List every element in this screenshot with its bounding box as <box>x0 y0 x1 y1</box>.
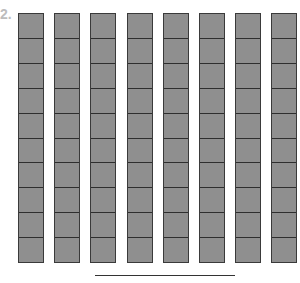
unit-cell <box>164 14 188 39</box>
answer-line[interactable] <box>95 275 235 276</box>
ten-rod <box>199 13 225 263</box>
unit-cell <box>272 213 296 238</box>
unit-cell <box>19 14 43 39</box>
unit-cell <box>236 213 260 238</box>
unit-cell <box>19 163 43 188</box>
ten-rod <box>54 13 80 263</box>
unit-cell <box>128 114 152 139</box>
unit-cell <box>272 114 296 139</box>
unit-cell <box>19 64 43 89</box>
unit-cell <box>128 89 152 114</box>
unit-cell <box>164 39 188 64</box>
unit-cell <box>200 114 224 139</box>
unit-cell <box>128 238 152 262</box>
unit-cell <box>128 14 152 39</box>
unit-cell <box>128 64 152 89</box>
ten-rod <box>271 13 297 263</box>
unit-cell <box>128 39 152 64</box>
unit-cell <box>200 163 224 188</box>
ten-rod <box>18 13 44 263</box>
unit-cell <box>164 188 188 213</box>
unit-cell <box>164 238 188 262</box>
unit-cell <box>164 89 188 114</box>
unit-cell <box>272 238 296 262</box>
unit-cell <box>200 39 224 64</box>
unit-cell <box>164 64 188 89</box>
unit-cell <box>91 188 115 213</box>
unit-cell <box>236 14 260 39</box>
unit-cell <box>164 114 188 139</box>
unit-cell <box>55 213 79 238</box>
unit-cell <box>55 64 79 89</box>
unit-cell <box>236 188 260 213</box>
unit-cell <box>200 238 224 262</box>
unit-cell <box>19 238 43 262</box>
unit-cell <box>19 89 43 114</box>
unit-cell <box>91 64 115 89</box>
unit-cell <box>55 89 79 114</box>
ten-rod <box>90 13 116 263</box>
unit-cell <box>272 188 296 213</box>
unit-cell <box>200 89 224 114</box>
unit-cell <box>236 39 260 64</box>
unit-cell <box>272 139 296 164</box>
unit-cell <box>55 14 79 39</box>
unit-cell <box>200 139 224 164</box>
unit-cell <box>272 14 296 39</box>
unit-cell <box>236 114 260 139</box>
unit-cell <box>55 114 79 139</box>
unit-cell <box>55 139 79 164</box>
ten-rod <box>163 13 189 263</box>
unit-cell <box>236 139 260 164</box>
unit-cell <box>91 89 115 114</box>
unit-cell <box>272 89 296 114</box>
unit-cell <box>236 238 260 262</box>
unit-cell <box>19 139 43 164</box>
unit-cell <box>236 64 260 89</box>
unit-cell <box>200 213 224 238</box>
unit-cell <box>200 64 224 89</box>
unit-cell <box>91 114 115 139</box>
unit-cell <box>91 139 115 164</box>
unit-cell <box>164 213 188 238</box>
unit-cell <box>272 39 296 64</box>
unit-cell <box>128 213 152 238</box>
unit-cell <box>19 114 43 139</box>
unit-cell <box>91 163 115 188</box>
question-number: 2. <box>0 6 12 22</box>
unit-cell <box>164 139 188 164</box>
unit-cell <box>55 238 79 262</box>
unit-cell <box>19 213 43 238</box>
unit-cell <box>200 188 224 213</box>
unit-cell <box>55 188 79 213</box>
unit-cell <box>128 163 152 188</box>
unit-cell <box>91 39 115 64</box>
ten-rod <box>235 13 261 263</box>
unit-cell <box>236 89 260 114</box>
unit-cell <box>200 14 224 39</box>
unit-cell <box>91 14 115 39</box>
unit-cell <box>19 39 43 64</box>
ten-rod <box>127 13 153 263</box>
unit-cell <box>55 163 79 188</box>
unit-cell <box>164 163 188 188</box>
unit-cell <box>91 213 115 238</box>
unit-cell <box>55 39 79 64</box>
unit-cell <box>128 188 152 213</box>
unit-cell <box>19 188 43 213</box>
unit-cell <box>236 163 260 188</box>
unit-cell <box>272 163 296 188</box>
unit-cell <box>272 64 296 89</box>
unit-cell <box>128 139 152 164</box>
unit-cell <box>91 238 115 262</box>
